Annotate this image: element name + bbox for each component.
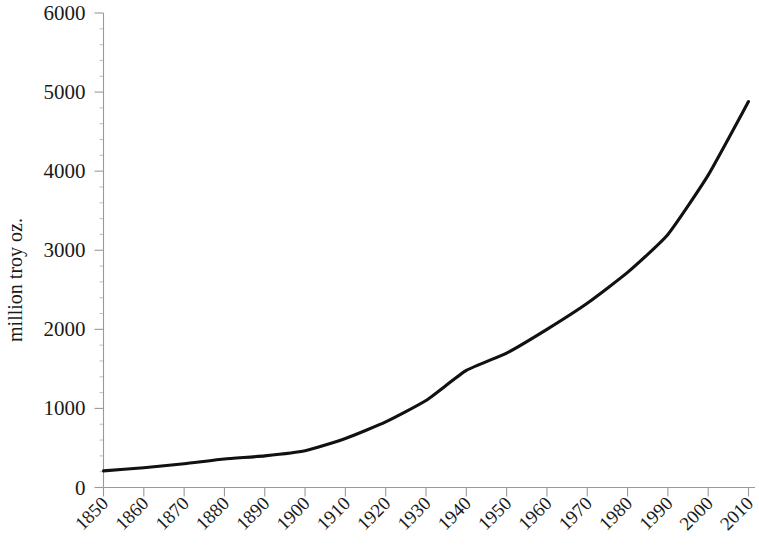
data-series-line: [104, 102, 749, 471]
chart-container: 0100020003000400050006000 18501860187018…: [0, 0, 759, 545]
x-tick-label: 1910: [312, 492, 354, 534]
x-tick-label: 1950: [474, 492, 516, 534]
x-tick-label: 1980: [595, 492, 637, 534]
x-axis-major-ticks: [104, 488, 749, 497]
line-chart: 0100020003000400050006000 18501860187018…: [0, 0, 759, 545]
y-tick-label: 5000: [44, 80, 86, 104]
y-tick-label: 4000: [44, 159, 86, 183]
y-tick-label: 1000: [44, 396, 86, 420]
x-tick-label: 2010: [716, 492, 758, 534]
x-tick-label: 1940: [433, 492, 475, 534]
x-tick-label: 2000: [675, 492, 717, 534]
x-tick-label: 1970: [554, 492, 596, 534]
x-tick-label: 1890: [232, 492, 274, 534]
y-tick-label: 3000: [44, 238, 86, 262]
x-tick-label: 1860: [111, 492, 153, 534]
y-tick-label: 2000: [44, 317, 86, 341]
y-tick-label: 0: [75, 476, 86, 500]
x-tick-label: 1880: [192, 492, 234, 534]
x-axis-tick-labels: 1850186018701880189019001910192019301940…: [71, 492, 758, 534]
y-tick-label: 6000: [44, 1, 86, 25]
y-axis-tick-labels: 0100020003000400050006000: [44, 1, 86, 500]
x-tick-label: 1960: [514, 492, 556, 534]
x-tick-label: 1870: [151, 492, 193, 534]
y-axis-title: million troy oz.: [4, 218, 27, 342]
x-tick-label: 1930: [393, 492, 435, 534]
x-tick-label: 1920: [353, 492, 395, 534]
y-axis-major-ticks: [95, 13, 104, 488]
x-tick-label: 1990: [635, 492, 677, 534]
x-tick-label: 1900: [272, 492, 314, 534]
